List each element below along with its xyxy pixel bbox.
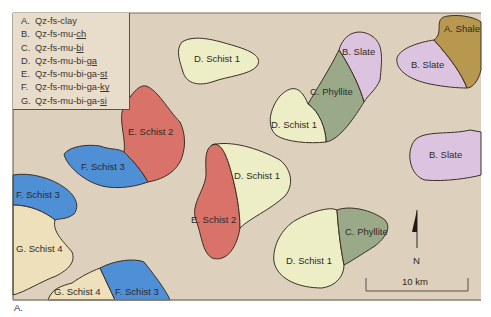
legend-index-mineral: ga (87, 56, 97, 66)
label-schist3-far-west: F. Schist 3 (16, 189, 60, 200)
legend: A.Qz-fs-clayB.Qz-fs-mu-chC.Qz-fs-mu-biD.… (13, 13, 130, 110)
legend-item: D.Qz-fs-mu-bi-ga (21, 55, 129, 68)
legend-key: E. (21, 68, 35, 81)
legend-key: D. (21, 55, 35, 68)
label-schist4-west: G. Schist 4 (16, 243, 62, 254)
label-schist3-south: F. Schist 3 (115, 286, 159, 297)
label-phyllite-se: C. Phyllite (345, 226, 388, 237)
legend-key: C. (21, 42, 35, 55)
label-slate-center: B. Slate (342, 46, 375, 57)
scale-label: 10 km (402, 276, 428, 287)
label-schist4-south: G. Schist 4 (54, 286, 100, 297)
label-shale-ne: A. Shale (444, 23, 480, 34)
label-schist3-west: F. Schist 3 (81, 161, 125, 172)
label-schist2-west: E. Schist 2 (128, 126, 173, 137)
legend-formula: Qz-fs-mu-bi-ga- (35, 69, 100, 79)
legend-formula: Qz-fs-mu-bi-ga- (35, 96, 100, 106)
label-schist1-top: D. Schist 1 (194, 53, 240, 64)
figure-caption: A. (14, 302, 23, 313)
legend-item: F.Qz-fs-mu-bi-ga-ky (21, 81, 129, 94)
legend-key: G. (21, 95, 35, 108)
legend-index-mineral: bi (76, 43, 83, 53)
legend-key: F. (21, 81, 35, 94)
legend-formula: Qz-fs-mu- (35, 43, 76, 53)
legend-formula: Qz-fs- (35, 16, 60, 26)
label-schist1-middle: D. Schist 1 (234, 170, 280, 181)
legend-index-mineral: clay (60, 16, 77, 26)
north-label: N (413, 255, 420, 266)
legend-key: A. (21, 15, 35, 28)
legend-item: C.Qz-fs-mu-bi (21, 42, 129, 55)
legend-index-mineral: st (100, 69, 107, 79)
legend-key: B. (21, 28, 35, 41)
label-phyllite-center: C. Phyllite (310, 86, 353, 97)
legend-item: B.Qz-fs-mu-ch (21, 28, 129, 41)
legend-index-mineral: ky (100, 82, 109, 92)
legend-formula: Qz-fs-mu- (35, 29, 76, 39)
label-slate-east: B. Slate (429, 149, 462, 160)
label-schist2-middle: E. Schist 2 (191, 214, 236, 225)
legend-item: E.Qz-fs-mu-bi-ga-st (21, 68, 129, 81)
label-schist1-south: D. Schist 1 (286, 255, 332, 266)
legend-index-mineral: si (100, 96, 107, 106)
legend-formula: Qz-fs-mu-bi- (35, 56, 87, 66)
legend-item: G.Qz-fs-mu-bi-ga-si (21, 95, 129, 108)
label-slate-ne: B. Slate (411, 59, 444, 70)
legend-index-mineral: ch (76, 29, 86, 39)
legend-item: A.Qz-fs-clay (21, 15, 129, 28)
label-schist1-center: D. Schist 1 (271, 119, 317, 130)
legend-formula: Qz-fs-mu-bi-ga- (35, 82, 100, 92)
